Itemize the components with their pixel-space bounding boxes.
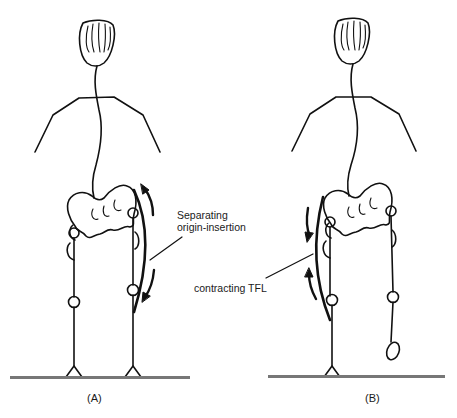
caption-a: (A) <box>87 392 102 404</box>
knee-a-right <box>128 285 139 296</box>
figure-b <box>266 18 416 377</box>
knee-b-left <box>327 295 338 306</box>
foot-b-hanging <box>384 340 401 361</box>
annotation-separating-origin-insertion: Separating origin-insertion <box>177 209 246 233</box>
arrow-up-a <box>145 189 153 215</box>
arrow-down-a <box>145 270 154 297</box>
foot-a-left <box>66 366 82 377</box>
head-a <box>80 20 115 66</box>
pelvis-b <box>324 183 392 235</box>
knee-b-right <box>388 292 399 303</box>
figure-a <box>35 20 182 377</box>
foot-a-right <box>125 366 141 377</box>
spine-b <box>348 64 358 196</box>
annotation-line-1: Separating <box>177 209 246 221</box>
annotation-contracting-tfl: contracting TFL <box>194 282 267 294</box>
ground-b <box>268 375 445 378</box>
caption-b: (B) <box>365 392 380 404</box>
tfl-muscle-b <box>316 197 330 320</box>
annotation-line-2: origin-insertion <box>177 221 246 233</box>
knee-a-left <box>69 297 80 308</box>
head-b <box>335 18 370 64</box>
ground-a <box>10 376 190 379</box>
leader-line-a <box>150 237 182 260</box>
arrow-up-b <box>309 274 316 299</box>
spine-a <box>93 66 102 198</box>
